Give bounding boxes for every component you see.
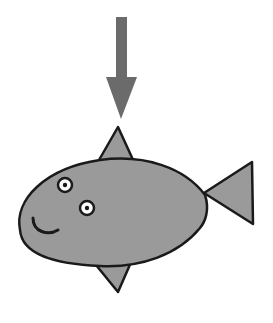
fish-body [19,159,207,267]
arrow-down-icon [106,17,137,119]
eye-right [80,201,94,215]
eye-left [58,178,72,192]
tail-fin [204,162,253,224]
dorsal-fin [99,127,134,162]
fish-illustration [0,0,273,323]
